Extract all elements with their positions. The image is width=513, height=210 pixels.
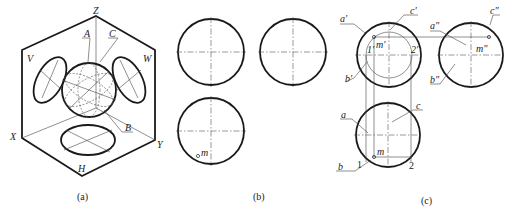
label-m-dprime: m" [476,43,488,54]
label-z: Z [93,5,99,16]
label-y: Y [157,139,164,150]
label-m: m [377,146,384,157]
label-b: b [338,161,343,172]
label-2: 2 [409,160,414,171]
label-c: c [416,100,421,111]
label-c-prime: c' [410,5,417,16]
panel-a-isometric: Z V W A C B X Y H (a) [9,5,164,203]
label-a: A [83,28,91,39]
label-1: 1 [357,159,362,170]
panel-b-views: m (b) [176,17,328,203]
point-m [196,154,199,157]
caption-c: (c) [421,195,432,207]
panel-c-solution: a' c' 1' m' 2' b' a" c" m" b" a c m b 1 … [336,5,505,207]
label-m: m [201,147,208,158]
label-h: H [77,163,86,174]
label-a-dprime: a" [430,20,440,31]
label-v: V [27,53,35,64]
label-1-prime: 1' [367,44,375,55]
projection-box [22,16,155,176]
label-x: X [9,131,17,142]
label-a: a [341,109,346,120]
label-c: C [109,28,116,39]
label-w: W [143,53,153,64]
caption-a: (a) [77,191,88,203]
label-b-dprime: b" [430,74,440,85]
v-plane-circle [27,52,73,108]
label-c-dprime: c" [490,5,499,16]
caption-b: (b) [253,191,265,203]
label-2-prime: 2' [411,44,419,55]
label-m-prime: m' [376,39,386,50]
label-b: B [125,122,131,133]
label-b-prime: b' [345,73,353,84]
label-a-prime: a' [340,13,348,24]
sphere-projection-figure: Z V W A C B X Y H (a) m (b) [0,0,513,210]
